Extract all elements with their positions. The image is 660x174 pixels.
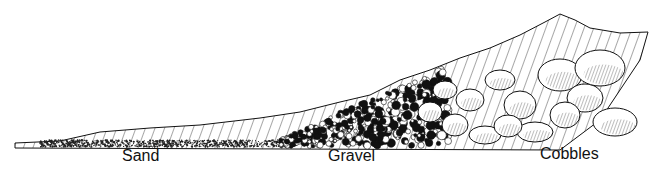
gravel-label: Gravel xyxy=(328,147,375,165)
sand-label: Sand xyxy=(122,147,159,165)
cobbles-label: Cobbles xyxy=(540,145,599,163)
sediment-diagram: Sand Gravel Cobbles xyxy=(0,0,660,174)
